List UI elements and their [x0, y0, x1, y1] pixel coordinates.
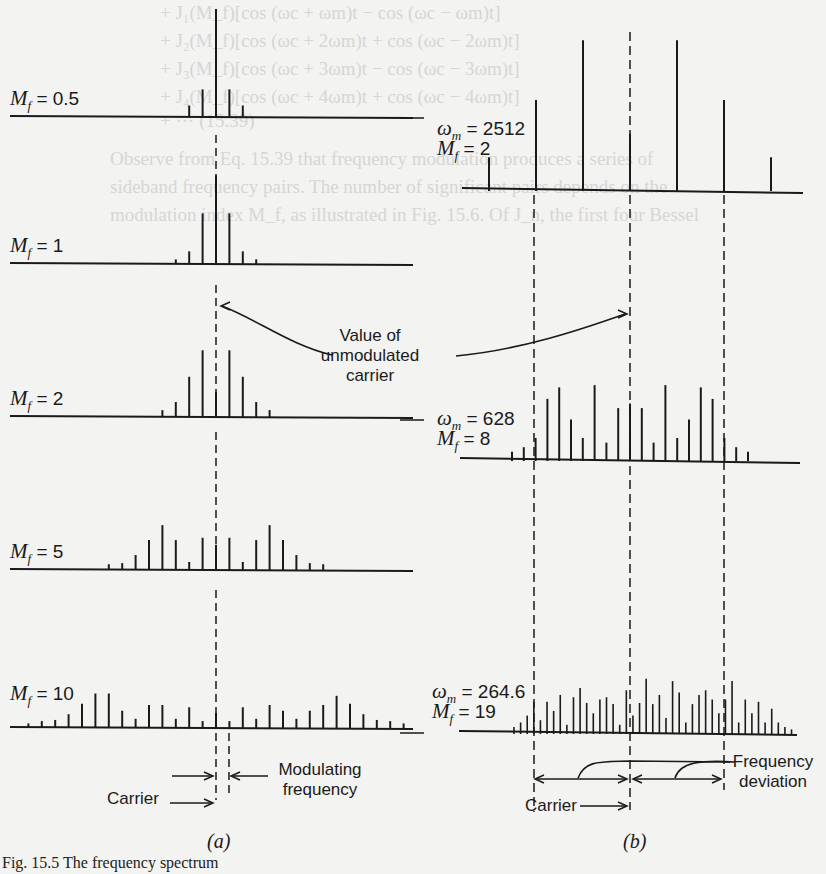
- baseline-b-2: [459, 731, 797, 735]
- unmodulated-arrow-b: [456, 314, 625, 356]
- frequency-deviation-annotation: Frequency deviation: [732, 752, 814, 792]
- baseline-a-4: [10, 727, 413, 729]
- arrowhead-icon: [618, 310, 627, 318]
- wm-264-label-mf: Mf = 19: [432, 701, 496, 724]
- fm-spectrum-figure: [0, 0, 826, 874]
- panel-b-tag: (b): [623, 830, 646, 853]
- unmodulated-carrier-annotation: Value of unmodulated carrier: [300, 326, 440, 386]
- baseline-a-0: [10, 116, 413, 118]
- carrier-annotation-a: Carrier: [107, 789, 159, 809]
- mf-1-label: Mf = 1: [10, 235, 63, 258]
- mf-0.5-label: Mf = 0.5: [10, 88, 79, 111]
- mf-5-label: Mf = 5: [10, 541, 63, 564]
- deviation-leader-1: [578, 761, 730, 778]
- baseline-a-1: [10, 263, 413, 265]
- mf-2-label: Mf = 2: [10, 388, 63, 411]
- figure-caption: Fig. 15.5 The frequency spectrum: [2, 854, 219, 872]
- wm-628-label-mf: Mf = 8: [437, 428, 490, 451]
- baseline-a-2: [10, 416, 413, 418]
- deviation-leader-2: [675, 761, 735, 778]
- baseline-a-3: [10, 569, 413, 571]
- baseline-b-0: [462, 188, 803, 193]
- arrowhead-icon: [221, 302, 230, 310]
- carrier-annotation-b: Carrier: [525, 796, 577, 816]
- modulating-frequency-annotation: Modulating frequency: [270, 760, 370, 800]
- mf-10-label: Mf = 10: [10, 683, 74, 706]
- wm-2512-label-mf: Mf = 2: [437, 138, 490, 161]
- panel-a-tag: (a): [207, 830, 230, 853]
